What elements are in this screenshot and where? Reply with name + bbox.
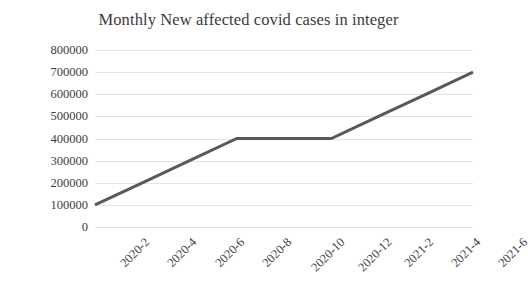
x-tick-label: 2020-10	[308, 235, 348, 275]
series-line-layer	[95, 50, 473, 227]
y-axis: 0100000200000300000400000500000600000700…	[0, 40, 88, 240]
x-tick-label: 2021-4	[448, 235, 484, 271]
x-tick-label: 2021-6	[495, 235, 531, 271]
x-tick-label: 2020-2	[117, 235, 153, 271]
x-tick-label: 2020-12	[355, 235, 395, 275]
x-tick-label: 2020-6	[212, 235, 248, 271]
x-tick-label: 2021-2	[401, 235, 437, 271]
y-tick-label: 800000	[0, 44, 88, 56]
x-tick-label: 2020-4	[165, 235, 201, 271]
y-tick-label: 600000	[0, 88, 88, 100]
y-tick-label: 0	[0, 221, 88, 233]
y-tick-label: 100000	[0, 199, 88, 211]
x-tick-label: 2020-8	[259, 235, 295, 271]
chart-title: Monthly New affected covid cases in inte…	[0, 10, 497, 30]
y-tick-label: 500000	[0, 110, 88, 122]
y-tick-label: 700000	[0, 66, 88, 78]
y-tick-label: 200000	[0, 177, 88, 189]
gridline	[95, 227, 473, 228]
y-tick-label: 300000	[0, 155, 88, 167]
series-line-monthly-new-affected-covid-cases	[95, 72, 473, 205]
y-tick-label: 400000	[0, 133, 88, 145]
plot-area	[95, 50, 473, 227]
